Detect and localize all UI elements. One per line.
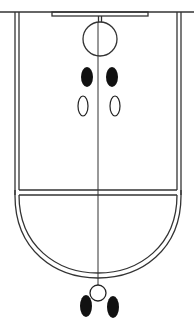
player-filled-icon bbox=[80, 295, 92, 317]
player-outline-icon bbox=[78, 96, 88, 116]
player-filled-icon bbox=[107, 296, 119, 318]
court-svg bbox=[0, 0, 194, 322]
backboard bbox=[52, 12, 148, 16]
player-filled-icon bbox=[106, 67, 118, 87]
player-filled-icon bbox=[81, 67, 93, 87]
hoop-rim bbox=[83, 22, 117, 56]
ball-icon bbox=[90, 285, 106, 301]
basketball-court-diagram bbox=[0, 0, 194, 322]
player-outline-icon bbox=[110, 96, 120, 116]
